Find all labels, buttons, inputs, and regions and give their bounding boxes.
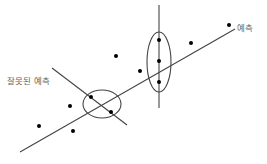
wrong-prediction-label: 잘못된 예측	[7, 77, 50, 86]
data-point	[89, 95, 93, 99]
data-point	[157, 80, 161, 84]
clipped-caption	[30, 158, 230, 164]
left-cluster-ellipse	[83, 90, 121, 118]
data-point	[37, 124, 41, 128]
data-point	[157, 59, 161, 63]
data-point	[114, 54, 118, 58]
data-point	[138, 69, 142, 73]
data-point	[68, 104, 72, 108]
data-point	[227, 23, 231, 27]
cluster-ellipses	[83, 32, 171, 118]
data-point	[109, 110, 113, 114]
data-point	[157, 38, 161, 42]
data-point	[71, 129, 75, 133]
data-point	[189, 41, 193, 45]
regression-line	[20, 29, 235, 152]
data-points	[37, 23, 231, 133]
prediction-label: 예측	[237, 24, 253, 33]
